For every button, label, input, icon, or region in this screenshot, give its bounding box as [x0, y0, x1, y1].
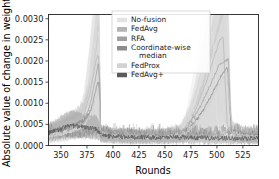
legend-label: FedProx [131, 61, 161, 70]
legend-label: RFA [131, 34, 145, 43]
x-tick-label: 525 [235, 150, 251, 160]
y-tick-label: 0.0000 [15, 141, 44, 151]
legend[interactable]: No-fusionFedAvgRFACoordinate-wisemedianF… [112, 11, 210, 79]
x-axis-label: Rounds [135, 165, 170, 176]
x-tick-label: 450 [157, 150, 173, 160]
y-tick-label: 0.0025 [15, 35, 44, 45]
y-tick-label: 0.0030 [15, 14, 44, 24]
legend-label-line2: median [139, 51, 167, 60]
x-tick-label: 375 [79, 150, 95, 160]
legend-swatch [117, 18, 127, 23]
figure-canvas: 350375400425450475500525 0.00000.00050.0… [0, 0, 279, 179]
x-tick-label: 425 [131, 150, 147, 160]
y-tick-label: 0.0010 [15, 98, 44, 108]
x-tick-label: 475 [183, 150, 199, 160]
x-tick-label: 500 [209, 150, 225, 160]
x-tick-label: 350 [53, 150, 69, 160]
y-axis-label: Absolute value of change in weights [1, 0, 12, 167]
y-tick-label: 0.0020 [15, 56, 44, 66]
legend-label: FedAvg [131, 24, 158, 33]
legend-swatch [117, 27, 127, 32]
y-tick-label: 0.0015 [15, 77, 44, 87]
y-tick-label: 0.0005 [15, 119, 44, 129]
legend-label: FedAvg+ [131, 70, 164, 79]
legend-label: No-fusion [131, 15, 167, 24]
legend-swatch [117, 73, 127, 78]
chart-svg: 350375400425450475500525 0.00000.00050.0… [0, 0, 279, 179]
x-tick-label: 400 [105, 150, 121, 160]
legend-swatch [117, 46, 127, 51]
legend-swatch [117, 63, 127, 68]
legend-swatch [117, 37, 127, 42]
